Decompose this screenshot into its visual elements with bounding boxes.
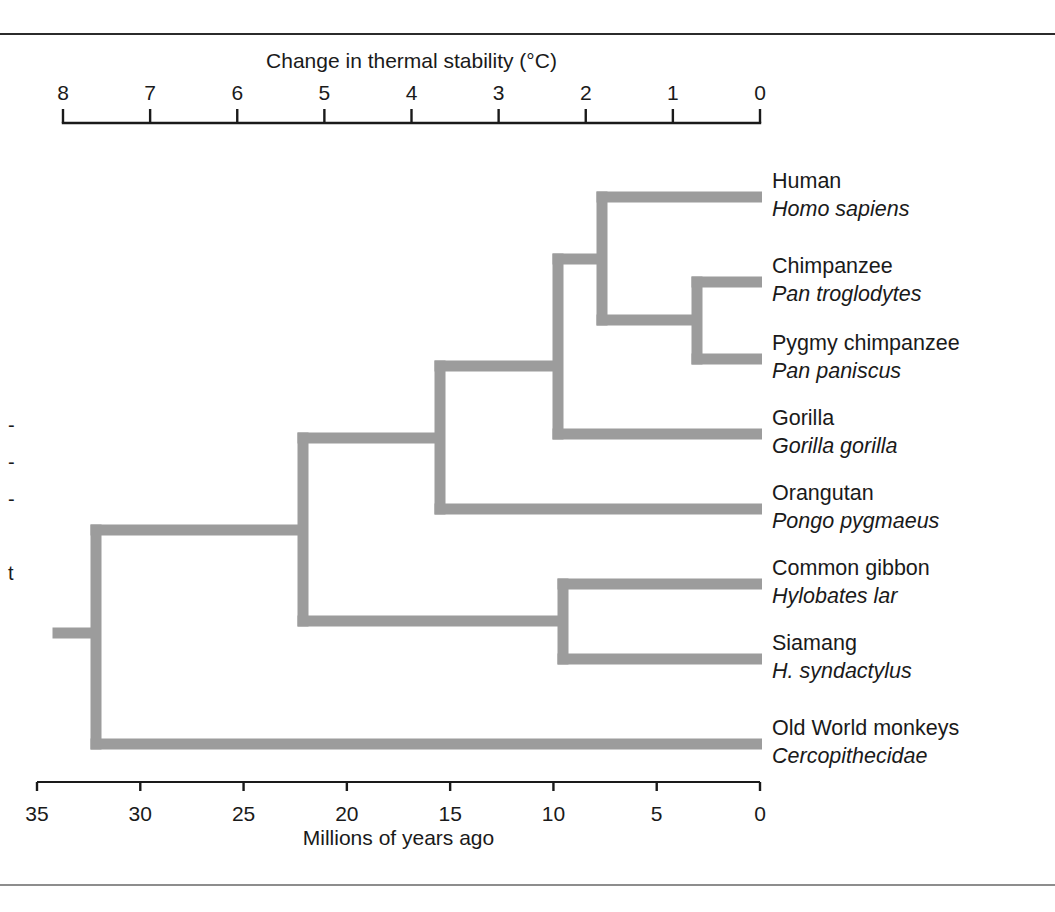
- bottom-axis: 35302520151050Millions of years ago: [25, 782, 766, 849]
- taxon-scientific-name-gibbon: Hylobates lar: [772, 584, 898, 608]
- phylogenetic-tree-svg: Change in thermal stability (°C)87654321…: [0, 0, 1055, 912]
- margin-caption-line: -: [8, 488, 15, 510]
- bottom-axis-tick-label: 15: [438, 802, 461, 825]
- taxon-scientific-name-siamang: H. syndactylus: [772, 659, 912, 683]
- taxon-scientific-name-bonobo: Pan paniscus: [772, 359, 901, 383]
- taxon-scientific-name-orangutan: Pongo pygmaeus: [772, 509, 940, 533]
- taxon-common-name-siamang: Siamang: [772, 631, 857, 655]
- taxon-common-name-gibbon: Common gibbon: [772, 556, 930, 580]
- margin-caption-fragment: ---t: [8, 414, 15, 584]
- top-axis-tick-label: 4: [406, 81, 418, 104]
- top-axis-tick-label: 0: [754, 81, 766, 104]
- top-axis-tick-label: 5: [319, 81, 331, 104]
- taxon-scientific-name-human: Homo sapiens: [772, 197, 910, 221]
- margin-caption-line: t: [8, 562, 14, 584]
- top-axis-tick-label: 6: [231, 81, 243, 104]
- bottom-axis-title: Millions of years ago: [303, 826, 494, 849]
- taxon-scientific-name-chimp: Pan troglodytes: [772, 282, 922, 306]
- taxon-scientific-name-owmonkey: Cercopithecidae: [772, 744, 927, 768]
- top-axis-tick-label: 3: [493, 81, 505, 104]
- bottom-axis-tick-label: 20: [335, 802, 358, 825]
- bottom-axis-tick-label: 5: [651, 802, 663, 825]
- margin-caption-line: -: [8, 451, 15, 473]
- taxon-common-name-chimp: Chimpanzee: [772, 254, 893, 278]
- top-axis-tick-label: 8: [57, 81, 69, 104]
- top-axis-title: Change in thermal stability (°C): [266, 49, 557, 72]
- top-axis: Change in thermal stability (°C)87654321…: [57, 49, 766, 123]
- bottom-axis-tick-label: 35: [25, 802, 48, 825]
- taxon-common-name-human: Human: [772, 169, 841, 193]
- taxon-common-name-gorilla: Gorilla: [772, 406, 834, 430]
- taxon-common-name-bonobo: Pygmy chimpanzee: [772, 331, 960, 355]
- margin-caption-line: -: [8, 414, 15, 436]
- bottom-axis-tick-label: 30: [129, 802, 152, 825]
- taxon-common-name-orangutan: Orangutan: [772, 481, 874, 505]
- top-axis-tick-label: 1: [667, 81, 679, 104]
- tree-branches: [53, 192, 763, 750]
- taxon-labels: HumanHomo sapiensChimpanzeePan troglodyt…: [772, 169, 960, 768]
- taxon-common-name-owmonkey: Old World monkeys: [772, 716, 959, 740]
- bottom-axis-tick-label: 10: [542, 802, 565, 825]
- taxon-scientific-name-gorilla: Gorilla gorilla: [772, 434, 898, 458]
- bottom-axis-tick-label: 0: [754, 802, 766, 825]
- top-axis-tick-label: 2: [580, 81, 592, 104]
- bottom-axis-tick-label: 25: [232, 802, 255, 825]
- figure-container: Change in thermal stability (°C)87654321…: [0, 0, 1055, 912]
- top-axis-tick-label: 7: [144, 81, 156, 104]
